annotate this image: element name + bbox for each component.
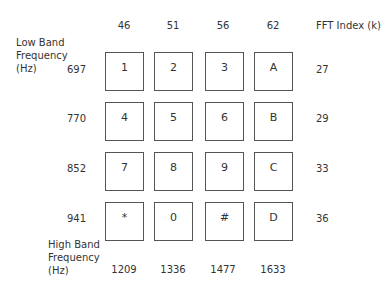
row-freq-697: 697 <box>67 63 86 76</box>
row-freq-941: 941 <box>67 212 86 225</box>
key-label: * <box>106 211 143 224</box>
key-8: 8 <box>154 152 193 191</box>
key-label: 3 <box>206 61 243 74</box>
key-star: * <box>105 202 144 241</box>
key-label: B <box>255 111 292 124</box>
key-4: 4 <box>105 102 144 141</box>
col-fft-index-3: 56 <box>203 19 243 32</box>
key-b: B <box>254 102 293 141</box>
key-9: 9 <box>205 152 244 191</box>
key-label: A <box>255 61 292 74</box>
key-label: 7 <box>106 161 143 174</box>
row-fft-index-2: 29 <box>316 112 329 125</box>
low-band-label-line1: Low Band <box>16 36 65 49</box>
row-fft-index-4: 36 <box>316 212 329 225</box>
key-a: A <box>254 52 293 91</box>
key-1: 1 <box>105 52 144 91</box>
col-fft-index-4: 62 <box>253 19 293 32</box>
col-fft-index-1: 46 <box>104 19 144 32</box>
key-0: 0 <box>154 202 193 241</box>
row-freq-852: 852 <box>67 162 86 175</box>
row-fft-index-3: 33 <box>316 162 329 175</box>
key-2: 2 <box>154 52 193 91</box>
col-freq-1209: 1209 <box>104 263 144 276</box>
key-d: D <box>254 202 293 241</box>
key-c: C <box>254 152 293 191</box>
high-band-label-line2: Frequency <box>48 251 100 264</box>
fft-index-label: FFT Index (k) <box>316 19 381 32</box>
key-label: 4 <box>106 111 143 124</box>
key-label: 8 <box>155 161 192 174</box>
key-5: 5 <box>154 102 193 141</box>
low-band-label-line2: Frequency <box>16 49 68 62</box>
key-label: D <box>255 211 292 224</box>
col-freq-1477: 1477 <box>203 263 243 276</box>
high-band-label-line1: High Band <box>48 238 100 251</box>
row-freq-770: 770 <box>67 112 86 125</box>
key-6: 6 <box>205 102 244 141</box>
row-fft-index-1: 27 <box>316 63 329 76</box>
key-3: 3 <box>205 52 244 91</box>
key-7: 7 <box>105 152 144 191</box>
col-fft-index-2: 51 <box>153 19 193 32</box>
high-band-label-line3: (Hz) <box>48 264 69 277</box>
col-freq-1336: 1336 <box>153 263 193 276</box>
key-label: 6 <box>206 111 243 124</box>
key-label: 1 <box>106 61 143 74</box>
key-label: 0 <box>155 211 192 224</box>
key-label: # <box>206 211 243 224</box>
key-label: 5 <box>155 111 192 124</box>
low-band-label-line3: (Hz) <box>16 62 37 75</box>
key-hash: # <box>205 202 244 241</box>
key-label: C <box>255 161 292 174</box>
col-freq-1633: 1633 <box>253 263 293 276</box>
key-label: 9 <box>206 161 243 174</box>
key-label: 2 <box>155 61 192 74</box>
